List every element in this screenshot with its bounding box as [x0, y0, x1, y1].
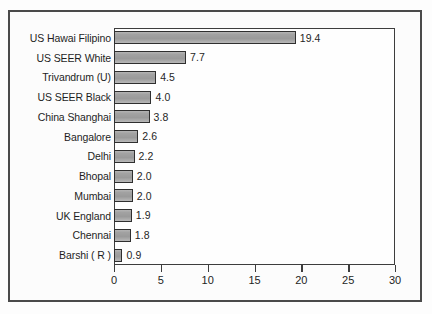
bar-row: 1.8 [114, 227, 395, 243]
y-axis-label-10: Chennai [14, 230, 111, 241]
y-axis-label-2: Trivandrum (U) [14, 72, 111, 83]
bar-row: 0.9 [114, 247, 395, 263]
bar-row: 3.8 [114, 109, 395, 125]
x-tick-label-3: 15 [248, 275, 260, 286]
bar-row: 4.0 [114, 89, 395, 105]
y-axis-label-6: Delhi [14, 151, 111, 162]
bar-row: 7.7 [114, 50, 395, 66]
bar-value-label: 19.4 [300, 33, 321, 44]
bar-value-label: 0.9 [126, 250, 141, 261]
x-tick-label-2: 10 [202, 275, 214, 286]
bar [114, 229, 131, 242]
bar [114, 91, 151, 104]
bar [114, 170, 133, 183]
x-tick-label-0: 0 [111, 275, 117, 286]
bar-row: 2.6 [114, 129, 395, 145]
bar-row: 2.0 [114, 168, 395, 184]
y-axis-label-0: US Hawai Filipino [14, 33, 111, 44]
y-axis-label-8: Mumbai [14, 191, 111, 202]
bar-row: 2.0 [114, 188, 395, 204]
bar [114, 110, 150, 123]
y-axis-label-11: Barshi ( R ) [14, 250, 111, 261]
bar-row: 2.2 [114, 148, 395, 164]
bar-row: 19.4 [114, 30, 395, 46]
bar-value-label: 4.5 [160, 72, 175, 83]
bar-value-label: 4.0 [155, 92, 170, 103]
plot-area: 19.47.74.54.03.82.62.22.02.01.91.80.9 [114, 28, 395, 265]
x-tick-3 [255, 265, 256, 272]
x-tick-0 [114, 265, 115, 272]
bar-row: 4.5 [114, 69, 395, 85]
bar-value-label: 1.9 [136, 210, 151, 221]
x-tick-label-5: 25 [342, 275, 354, 286]
x-axis-ticks [114, 265, 395, 273]
bar [114, 130, 138, 143]
y-axis-label-4: China Shanghai [14, 112, 111, 123]
bar-value-label: 2.0 [137, 171, 152, 182]
bar-value-label: 2.6 [142, 131, 157, 142]
bar-value-label: 1.8 [135, 230, 150, 241]
bar [114, 209, 132, 222]
bar-value-label: 3.8 [154, 112, 169, 123]
x-tick-6 [395, 265, 396, 272]
x-tick-label-1: 5 [158, 275, 164, 286]
x-tick-5 [348, 265, 349, 272]
y-axis-label-3: US SEER Black [14, 92, 111, 103]
chart-figure: US Hawai FilipinoUS SEER WhiteTrivandrum… [0, 0, 432, 314]
bar [114, 51, 186, 64]
x-axis-tick-labels: 051015202530 [114, 275, 395, 291]
y-axis-label-7: Bhopal [14, 171, 111, 182]
bar-value-label: 2.0 [137, 191, 152, 202]
x-tick-label-6: 30 [389, 275, 401, 286]
bar-row: 1.9 [114, 208, 395, 224]
bar [114, 31, 296, 44]
bar-series: 19.47.74.54.03.82.62.22.02.01.91.80.9 [114, 28, 395, 265]
x-tick-4 [301, 265, 302, 272]
x-tick-1 [161, 265, 162, 272]
y-axis-label-5: Bangalore [14, 132, 111, 143]
y-axis-label-1: US SEER White [14, 53, 111, 64]
bar [114, 249, 122, 262]
x-tick-2 [208, 265, 209, 272]
bar [114, 189, 133, 202]
bar [114, 150, 135, 163]
bar-value-label: 2.2 [139, 151, 154, 162]
y-axis-label-9: UK England [14, 211, 111, 222]
bar-value-label: 7.7 [190, 52, 205, 63]
y-axis-category-labels: US Hawai FilipinoUS SEER WhiteTrivandrum… [14, 28, 111, 265]
bar [114, 71, 156, 84]
x-tick-label-4: 20 [295, 275, 307, 286]
